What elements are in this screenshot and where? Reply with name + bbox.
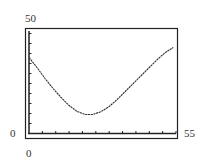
data-curve bbox=[29, 48, 173, 115]
chart-canvas bbox=[0, 0, 209, 163]
plot-frame bbox=[26, 29, 178, 139]
